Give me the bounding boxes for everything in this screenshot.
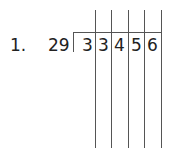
dividend-digit: 6 (147, 35, 158, 55)
division-bracket (73, 32, 74, 52)
column-line (128, 10, 129, 148)
problem-number: 1. (10, 35, 26, 55)
dividend-digit: 3 (82, 35, 93, 55)
divisor: 29 (48, 35, 70, 55)
column-line (111, 10, 112, 148)
dividend-digit: 4 (114, 35, 125, 55)
column-line (161, 10, 162, 148)
dividend-digit: 3 (98, 35, 109, 55)
dividend-digit: 5 (131, 35, 142, 55)
division-bar (73, 32, 162, 33)
column-line (95, 10, 96, 148)
column-line (144, 10, 145, 148)
